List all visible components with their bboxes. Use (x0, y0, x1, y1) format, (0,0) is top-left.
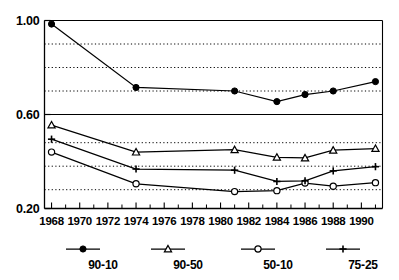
legend-label-90-10: 90-10 (88, 258, 118, 272)
chart-container: 1968197019721974197619781980198219841986… (0, 0, 399, 280)
series-90-10 (48, 21, 378, 105)
marker-filled-circle (232, 88, 238, 94)
series-line (52, 152, 376, 191)
marker-filled-circle (274, 98, 280, 104)
x-axis-label-1986: 1986 (293, 215, 317, 227)
marker-open-circle (372, 180, 378, 186)
legend-item-90-50[interactable]: 90-50 (151, 245, 203, 272)
x-axis-tick-labels: 1968197019721974197619781980198219841986… (39, 215, 373, 227)
y-axis-ticks (45, 21, 51, 209)
y-axis-label-1-00: 1.00 (16, 14, 40, 28)
marker-filled-circle (80, 246, 86, 252)
legend-label-50-10: 50-10 (263, 258, 293, 272)
series-line (52, 24, 376, 102)
marker-open-circle (133, 181, 139, 187)
x-axis-label-1980: 1980 (208, 215, 232, 227)
marker-filled-circle (302, 91, 308, 97)
x-axis-ticks (52, 203, 376, 209)
x-axis-label-1984: 1984 (265, 215, 290, 227)
x-axis-label-1976: 1976 (152, 215, 176, 227)
x-axis-label-1974: 1974 (124, 215, 149, 227)
marker-filled-circle (372, 79, 378, 85)
legend-item-75-25[interactable]: 75-25 (326, 245, 378, 272)
marker-open-circle (232, 188, 238, 194)
marker-open-circle (255, 246, 261, 252)
legend-label-90-50: 90-50 (173, 258, 203, 272)
y-axis-label-0-20: 0.20 (16, 202, 40, 216)
y-axis-tick-labels: 1.000.600.20 (16, 14, 40, 216)
x-axis-label-1968: 1968 (39, 215, 64, 227)
marker-filled-circle (48, 21, 54, 27)
legend-item-50-10[interactable]: 50-10 (241, 246, 293, 272)
x-axis-label-1990: 1990 (349, 215, 373, 227)
marker-open-circle (330, 183, 336, 189)
legend-label-75-25: 75-25 (348, 258, 378, 272)
line-chart: 1968197019721974197619781980198219841986… (0, 0, 399, 280)
marker-filled-circle (330, 88, 336, 94)
legend-item-90-10[interactable]: 90-10 (66, 246, 118, 272)
marker-filled-circle (133, 84, 139, 90)
marker-open-triangle (48, 121, 55, 127)
x-axis-label-1970: 1970 (68, 215, 92, 227)
series-line (52, 125, 376, 158)
series-line (52, 139, 376, 181)
chart-legend: 90-1090-5050-1075-25 (66, 245, 378, 272)
data-series-group (48, 21, 379, 195)
x-axis-label-1972: 1972 (96, 215, 120, 227)
x-axis-label-1982: 1982 (237, 215, 261, 227)
x-axis-label-1978: 1978 (180, 215, 205, 227)
y-axis-label-0-60: 0.60 (16, 108, 40, 122)
x-axis-label-1988: 1988 (321, 215, 346, 227)
marker-open-circle (48, 149, 54, 155)
marker-open-circle (274, 188, 280, 194)
